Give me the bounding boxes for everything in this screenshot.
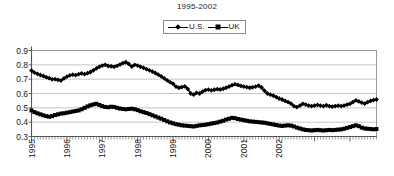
x-axis-label-1997: 1997 <box>98 139 106 158</box>
y-axis-label-0.9: 0.9 <box>16 47 28 55</box>
x-axis-label-2001: 2001 <box>240 139 248 158</box>
x-axis-tick-labels: 19951996199719981999200020012002 <box>0 139 394 173</box>
legend-item-uk: UK <box>208 22 241 32</box>
y-axis-label-0.7: 0.7 <box>16 75 28 83</box>
x-axis-label-2000: 2000 <box>204 139 212 158</box>
x-axis-label-1996: 1996 <box>63 139 71 158</box>
x-axis-label-1995: 1995 <box>28 139 36 158</box>
y-axis-label-0.5: 0.5 <box>16 104 28 112</box>
y-axis-label-0.8: 0.8 <box>16 61 28 69</box>
chart-legend: U.S. UK <box>163 20 246 34</box>
x-axis-label-1998: 1998 <box>134 139 142 158</box>
y-axis-label-0.4: 0.4 <box>16 118 28 126</box>
diamond-marker-icon <box>175 24 181 30</box>
square-marker-icon <box>215 25 220 30</box>
x-axis-label-2002: 2002 <box>275 139 283 158</box>
legend-line-uk-icon <box>208 27 228 28</box>
y-axis-label-0.6: 0.6 <box>16 90 28 98</box>
x-axis-label-1999: 1999 <box>169 139 177 158</box>
legend-label-uk: UK <box>228 22 241 32</box>
chart-title: 1995-2002 <box>0 2 394 11</box>
line-chart: 1995-2002 U.S. UK 0.30.40.50.60.70.80.9 … <box>0 0 394 176</box>
legend-item-us: U.S. <box>168 22 206 32</box>
legend-label-us: U.S. <box>188 22 206 32</box>
legend-line-us-icon <box>168 27 188 28</box>
